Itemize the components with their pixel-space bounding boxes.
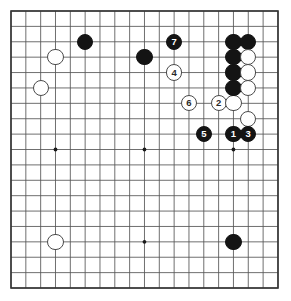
star-point xyxy=(54,148,58,152)
stone-black xyxy=(225,64,241,80)
stone-black xyxy=(225,49,241,65)
stone-move-number: 3 xyxy=(246,129,251,139)
stone-black xyxy=(136,49,152,65)
star-point xyxy=(143,240,147,244)
stone-white xyxy=(225,95,241,111)
numbered-stone-white-4: 4 xyxy=(166,64,182,80)
numbered-stone-black-1: 1 xyxy=(225,126,241,142)
stone-black xyxy=(225,34,241,50)
stone-move-number: 7 xyxy=(171,37,176,47)
stone-white xyxy=(47,49,63,65)
stone-white xyxy=(33,80,49,96)
stone-move-number: 2 xyxy=(216,98,221,108)
stone-black xyxy=(225,80,241,96)
stone-move-number: 1 xyxy=(231,129,236,139)
numbered-stone-black-5: 5 xyxy=(196,126,212,142)
stone-white xyxy=(240,111,256,127)
numbered-stone-white-2: 2 xyxy=(211,95,227,111)
stone-black xyxy=(77,34,93,50)
star-point xyxy=(232,148,236,152)
stone-white xyxy=(47,234,63,250)
numbered-stone-black-7: 7 xyxy=(166,34,182,50)
stone-black xyxy=(225,234,241,250)
go-diagram: 7462513 xyxy=(0,0,291,301)
stone-move-number: 6 xyxy=(186,98,191,108)
stone-move-number: 4 xyxy=(171,68,176,78)
stone-white xyxy=(240,64,256,80)
stone-move-number: 5 xyxy=(201,129,206,139)
star-point xyxy=(143,148,147,152)
